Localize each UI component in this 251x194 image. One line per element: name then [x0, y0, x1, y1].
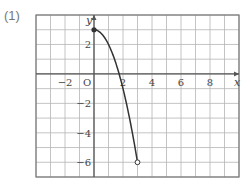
x-tick-label: 6 — [178, 77, 184, 88]
y-tick-label: −2 — [76, 98, 91, 109]
x-tick-label: 4 — [149, 77, 155, 88]
y-axis-arrow-icon — [92, 15, 97, 20]
y-axis-label: y — [85, 14, 93, 27]
y-tick-label: −6 — [76, 157, 91, 168]
x-axis-label: x — [234, 76, 241, 89]
y-tick-label: 2 — [85, 39, 91, 50]
x-tick-label: 8 — [207, 77, 213, 88]
function-graph: xyO−224682−2−4−6 — [0, 0, 251, 194]
origin-label: O — [83, 77, 91, 88]
x-tick-label: −2 — [58, 77, 73, 88]
filled-endpoint-icon — [91, 27, 96, 32]
y-tick-label: −4 — [76, 128, 91, 139]
open-endpoint-icon — [135, 160, 140, 165]
function-curve — [94, 30, 138, 163]
